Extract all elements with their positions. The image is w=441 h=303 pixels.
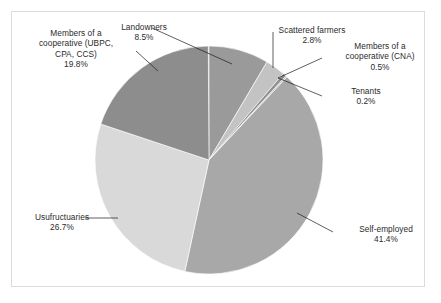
- leader-line-cna: [278, 58, 322, 78]
- slice-value-landowners: 8.5%: [92, 32, 196, 42]
- pie-chart-figure: Members of a cooperative (UBPC, CPA, CCS…: [0, 0, 441, 303]
- slice-label-usufructuaries-name: Usufructuaries: [35, 212, 89, 222]
- slice-value-ubpc: 19.8%: [18, 59, 134, 69]
- slice-label-cna-line2: cooperative (CNA): [345, 51, 414, 61]
- slice-label-tenants-name: Tenants: [351, 86, 380, 96]
- slice-label-landowners: Landowners 8.5%: [92, 22, 196, 43]
- slice-label-landowners-name: Landowners: [121, 22, 167, 32]
- slice-value-self-employed: 41.4%: [338, 234, 434, 244]
- slice-value-cna: 0.5%: [330, 62, 430, 72]
- slice-label-ubpc-line3: CPA, CCS): [55, 49, 97, 59]
- slice-label-cna-line1: Members of a: [354, 41, 405, 51]
- slice-label-cna: Members of a cooperative (CNA) 0.5%: [330, 41, 430, 72]
- slice-label-self-employed: Self-employed 41.4%: [338, 224, 434, 245]
- slice-value-usufructuaries: 26.7%: [12, 222, 112, 232]
- pie-slice-group: [95, 46, 323, 274]
- slice-value-tenants: 0.2%: [330, 96, 402, 106]
- slice-label-scattered-farmers-name: Scattered farmers: [279, 25, 346, 35]
- slice-label-usufructuaries: Usufructuaries 26.7%: [12, 212, 112, 233]
- slice-label-self-employed-name: Self-employed: [359, 224, 413, 234]
- slice-label-tenants: Tenants 0.2%: [330, 86, 402, 107]
